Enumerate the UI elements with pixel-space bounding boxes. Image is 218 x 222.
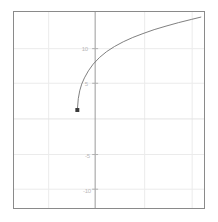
horizontal-gridlines — [14, 49, 204, 190]
y-tick-label-5: 5 — [85, 81, 88, 87]
y-tick-label-neg10: -10 — [83, 188, 91, 194]
y-tick-label-10: 10 — [82, 46, 88, 52]
data-curve — [77, 17, 201, 110]
origin-point-marker — [75, 108, 79, 112]
plot-area: 10 5 -5 -10 — [13, 11, 205, 209]
figure-container: 10 5 -5 -10 — [0, 0, 218, 222]
vertical-gridlines — [49, 12, 192, 208]
y-tick-label-neg5: -5 — [85, 153, 90, 159]
plot-svg — [14, 12, 204, 208]
